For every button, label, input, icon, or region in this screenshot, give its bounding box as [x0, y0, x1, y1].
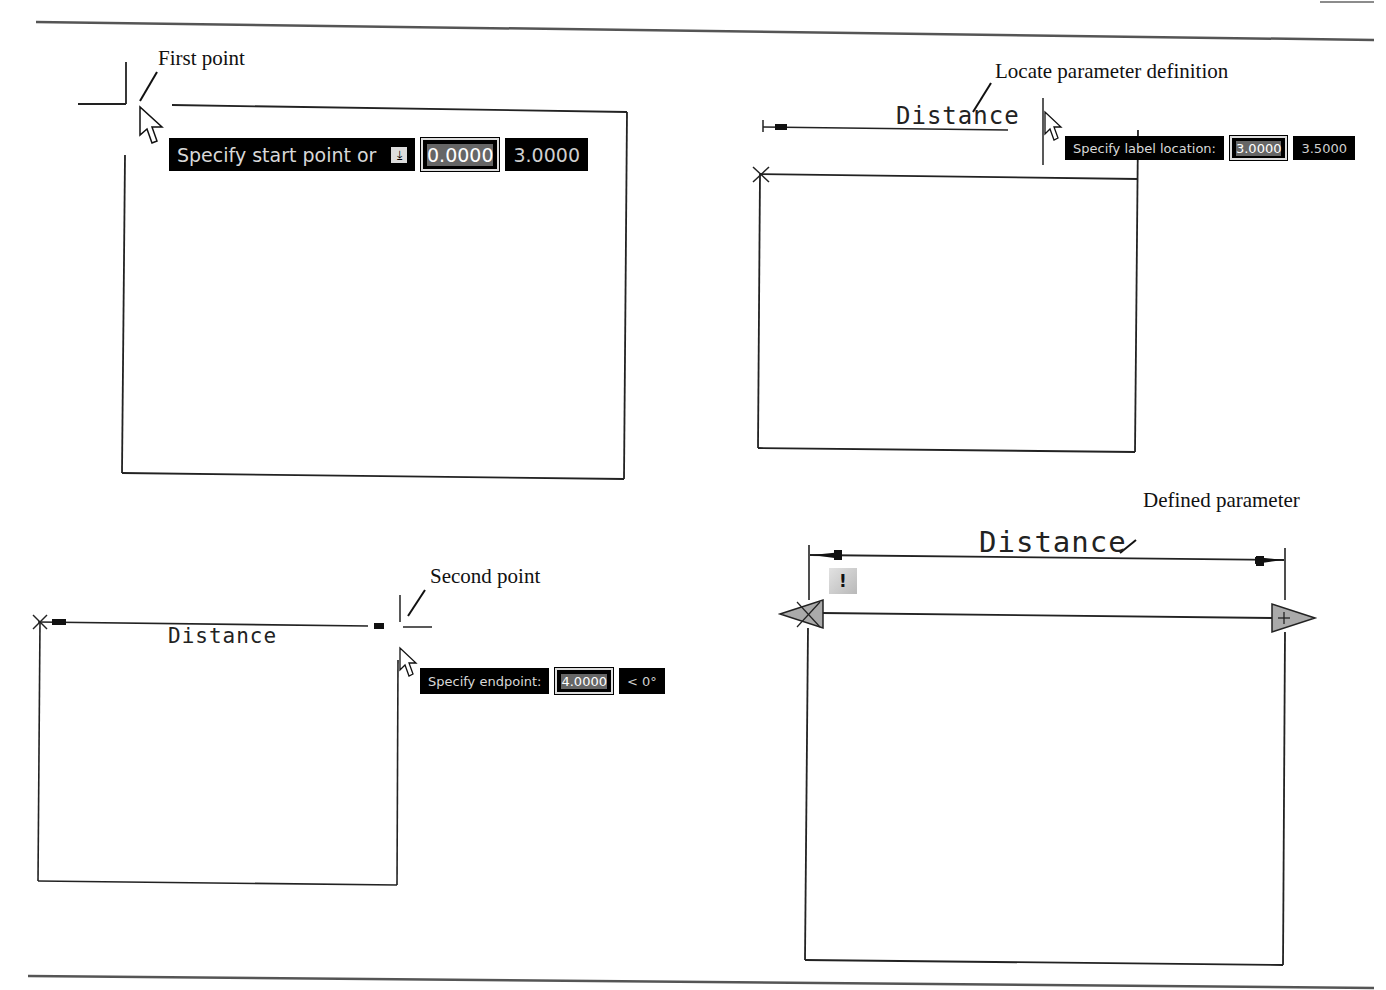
dynamic-input-tooltip-start: Specify start point or ⤓ 0.0000 3.0000 [169, 138, 588, 171]
dynamic-input-tooltip-endpoint: Specify endpoint: 4.0000 < 0° [420, 668, 665, 694]
endpoint-input[interactable]: 4.0000 [555, 668, 613, 694]
tooltip-prompt: Specify start point or ⤓ [169, 138, 415, 171]
bottom-rule [28, 976, 1374, 988]
distance-label: Distance [896, 102, 1020, 130]
panel-defined-parameter-drawing [780, 540, 1315, 965]
label-location-input[interactable]: 3.0000 [1230, 136, 1288, 160]
distance-label: Distance [979, 525, 1127, 559]
cursor-arrow-icon [1045, 112, 1061, 140]
start-point-input[interactable]: 0.0000 [421, 138, 499, 171]
tooltip-angle-value: < 0° [619, 668, 665, 694]
callout-locate-parameter-definition: Locate parameter definition [995, 59, 1228, 84]
down-arrow-menu-icon[interactable]: ⤓ [391, 147, 407, 163]
distance-label: Distance [168, 624, 277, 648]
tooltip-second-value: 3.0000 [505, 138, 587, 171]
tooltip-prompt: Specify label location: [1065, 136, 1224, 160]
callout-defined-parameter: Defined parameter [1143, 488, 1300, 513]
callout-second-point: Second point [430, 564, 540, 589]
dynamic-input-tooltip-label: Specify label location: 3.0000 3.5000 [1065, 136, 1355, 160]
cursor-arrow-icon [400, 648, 416, 676]
alert-badge-icon[interactable]: ! [829, 568, 857, 594]
cursor-arrow-icon [140, 107, 162, 143]
callout-first-point: First point [158, 46, 245, 71]
top-rule [36, 22, 1374, 40]
tooltip-prompt: Specify endpoint: [420, 668, 549, 694]
panel-first-point-drawing [78, 62, 627, 479]
tooltip-second-value: 3.5000 [1293, 136, 1355, 160]
